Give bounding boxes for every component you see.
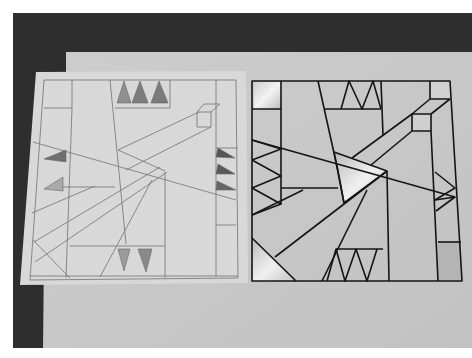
photograph [0,0,472,358]
bevel-square-small [412,114,431,131]
bevel-square-top-right [430,82,450,99]
bevel-rect-bottom-right [438,242,461,280]
bevel-square-top-left [254,82,281,109]
